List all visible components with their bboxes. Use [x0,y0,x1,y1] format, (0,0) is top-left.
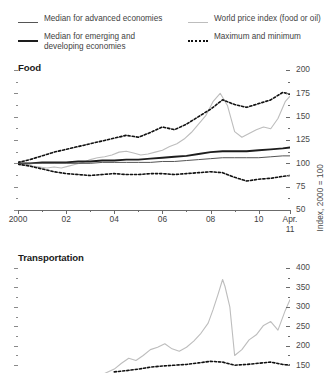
legend-item-label: Maximum and minimum [214,32,301,42]
x-tick-label: 2000 [9,215,28,225]
y-tick-mark-minor [288,278,291,279]
plot-area-food [18,70,290,210]
x-tick-label: 10 [254,215,263,225]
x-tick-mark [162,210,163,214]
x-tick-mark [259,210,260,214]
series-line [114,361,290,372]
chart-panel-transportation: Transportation 400350300250200150 Index,… [0,248,336,373]
series-line [18,279,290,373]
x-tick-mark-minor [186,210,187,212]
y-tick-mark [286,187,290,188]
x-tick-label: 08 [206,215,215,225]
legend-item-label: Median for advanced economies [44,14,162,24]
chart-legend: Median for advanced economies Median for… [0,0,336,58]
y-tick-mark [286,70,290,71]
y-tick-label: 200 [296,65,310,74]
y-tick-label: 300 [296,302,310,311]
legend-item-max-min: Maximum and minimum [188,32,336,45]
y-tick-mark-minor [288,175,291,176]
x-tick-mark [18,210,19,214]
legend-column-right: World price index (food or oil) Maximum … [188,14,336,50]
x-tick-mark-minor [90,210,91,212]
x-tick-mark-minor [235,210,236,212]
y-tick-mark [286,287,290,288]
plot-area-transportation [18,260,290,373]
x-axis-line [18,210,290,211]
legend-item-label: World price index (food or oil) [214,14,321,24]
line-swatch-thin-icon [18,17,38,27]
y-tick-label: 125 [296,135,310,144]
y-tick-mark-minor [288,355,291,356]
line-swatch-dashed-icon [188,35,208,45]
y-tick-label: 50 [296,205,305,214]
y-tick-mark-minor [288,128,291,129]
legend-item-emerging-median: Median for emerging and developing econo… [18,32,188,51]
line-swatch-light-icon [188,17,208,27]
x-tick-mark [114,210,115,214]
y-tick-label: 350 [296,283,310,292]
y-tick-mark-minor [288,336,291,337]
y-tick-label: 175 [296,89,310,98]
y-tick-mark [286,93,290,94]
y-axis-unit-label-food: Index, 2000 = 100 [316,164,325,231]
y-tick-mark [286,326,290,327]
y-tick-mark [286,365,290,366]
chart-panel-food: Food 2001751501251007550 Index, 2000 = 1… [0,58,336,234]
y-tick-mark [286,117,290,118]
x-tick-label: Apr. 11 [283,215,298,234]
y-tick-mark-minor [288,82,291,83]
x-tick-mark-minor [138,210,139,212]
legend-column-left: Median for advanced economies Median for… [18,14,188,56]
x-axis-food: 20000204060810Apr. 11 [18,210,290,234]
series-line [18,164,290,181]
line-swatch-thick-icon [18,35,38,45]
y-tick-mark [286,307,290,308]
y-tick-mark-minor [288,105,291,106]
x-tick-mark [211,210,212,214]
y-tick-mark-minor [288,152,291,153]
y-tick-mark-minor [288,297,291,298]
x-tick-mark [290,210,291,214]
y-tick-mark [286,140,290,141]
x-tick-label: 04 [110,215,119,225]
y-tick-label: 150 [296,361,310,370]
y-tick-mark [286,346,290,347]
y-tick-label: 400 [296,263,310,272]
y-tick-mark-minor [288,317,291,318]
y-tick-label: 250 [296,322,310,331]
y-tick-label: 75 [296,182,305,191]
x-tick-mark [66,210,67,214]
y-tick-mark-minor [288,198,291,199]
legend-item-advanced-median: Median for advanced economies [18,14,188,27]
y-tick-label: 100 [296,159,310,168]
y-tick-mark [286,163,290,164]
legend-item-label: Median for emerging and developing econo… [44,32,135,51]
y-tick-mark [286,268,290,269]
x-tick-label: 06 [158,215,167,225]
series-line [18,147,290,163]
y-tick-label: 150 [296,112,310,121]
y-tick-label: 200 [296,341,310,350]
legend-item-world-price-index: World price index (food or oil) [188,14,336,27]
x-tick-mark-minor [42,210,43,212]
x-tick-label: 02 [61,215,70,225]
